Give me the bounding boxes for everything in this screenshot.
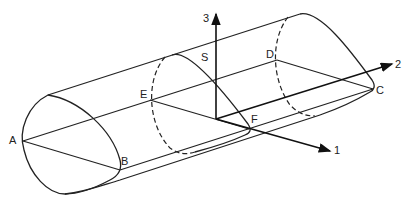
middle-section-hidden-curve (152, 57, 195, 154)
label-axis-2: 2 (395, 59, 401, 70)
label-D: D (266, 49, 274, 60)
cylinder-drawing (0, 0, 409, 205)
line-A-B (23, 141, 120, 170)
label-F: F (251, 114, 258, 125)
right-end-hidden-curve (275, 17, 315, 116)
label-axis-3: 3 (203, 13, 209, 24)
axis-1-arrow (216, 119, 330, 151)
bottom-generator-outer (65, 115, 320, 194)
label-E: E (140, 89, 147, 100)
diagram-canvas: A B C D E F S 3 2 1 (0, 0, 409, 205)
left-end-curve (22, 95, 120, 194)
label-C: C (376, 85, 384, 96)
label-B: B (121, 156, 128, 167)
label-A: A (9, 135, 16, 146)
right-end-curve (300, 14, 374, 115)
label-S: S (201, 52, 208, 63)
label-axis-1: 1 (334, 145, 340, 156)
middle-section-curve (172, 54, 250, 152)
